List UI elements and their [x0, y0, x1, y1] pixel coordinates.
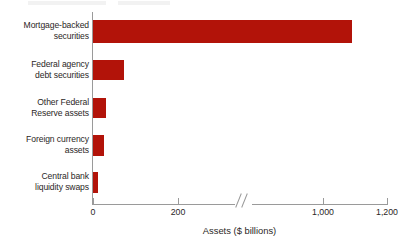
- x-axis-title: Assets ($ billions): [0, 225, 403, 236]
- x-tick-1200: [387, 198, 388, 204]
- x-tick-200: [178, 198, 179, 204]
- bar-foreign-currency-assets: [93, 135, 104, 156]
- category-label-foreign-currency-assets: Foreign currency assets: [0, 134, 89, 155]
- category-label-other-federal-reserve-assets: Other Federal Reserve assets: [0, 97, 89, 118]
- x-tick-label-1000: 1,000: [312, 207, 334, 218]
- category-label-federal-agency-debt-securities: Federal agency debt securities: [0, 59, 89, 80]
- y-axis-line: [92, 12, 93, 205]
- category-label-central-bank-liquidity-swaps: Central bank liquidity swaps: [0, 171, 89, 192]
- x-tick-0: [93, 198, 94, 204]
- category-label-mortgage-backed-securities: Mortgage-backed securities: [0, 20, 89, 41]
- horizontal-bar-chart: Mortgage-backed securities Federal agenc…: [0, 0, 403, 248]
- x-axis-title-text: Assets ($ billions): [203, 225, 276, 236]
- x-tick-label-1200: 1,200: [376, 207, 398, 218]
- bar-central-bank-liquidity-swaps: [93, 172, 98, 193]
- bar-federal-agency-debt-securities: [93, 60, 124, 80]
- bar-other-federal-reserve-assets: [93, 98, 106, 118]
- bar-mortgage-backed-securities: [93, 20, 352, 43]
- cropped-title-artifact: [0, 0, 403, 9]
- axis-break-icon: [233, 193, 253, 209]
- x-tick-label-200: 200: [171, 207, 186, 218]
- x-tick-1000: [323, 198, 324, 204]
- x-tick-label-0: 0: [91, 207, 96, 218]
